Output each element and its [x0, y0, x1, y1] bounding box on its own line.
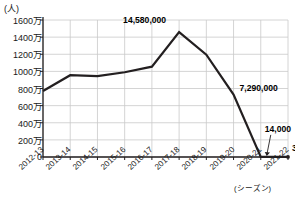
annotation-leader-lines	[265, 135, 271, 156]
data-value-label: 3000	[292, 143, 295, 153]
data-line-series-1	[43, 32, 288, 157]
data-value-label: 14,580,000	[123, 15, 166, 25]
data-point-markers	[286, 155, 290, 159]
plot-area	[0, 0, 295, 203]
line-chart: (人) 0200万400万600万800万1000万1200万1400万1600…	[0, 0, 295, 203]
data-value-label: 7,290,000	[240, 83, 278, 93]
data-value-label: 14,000	[265, 124, 291, 134]
x-axis-title: (シーズン)	[234, 182, 271, 193]
